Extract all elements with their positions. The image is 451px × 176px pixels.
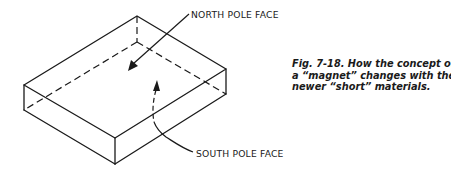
caption-line-1: Fig. 7-18. How the concept of xyxy=(292,58,442,70)
caption-line-3: newer “short” materials. xyxy=(292,81,442,93)
block-bottom-left xyxy=(24,110,115,164)
south-pole-face-label: SOUTH POLE FACE xyxy=(196,148,284,159)
south-pole-arrow xyxy=(153,80,193,152)
block-top-edges xyxy=(24,16,226,138)
caption-line-2: a “magnet” changes with the xyxy=(292,70,442,82)
hidden-edges xyxy=(24,16,226,110)
north-pole-face-label: NORTH POLE FACE xyxy=(191,9,279,20)
figure-caption: Fig. 7-18. How the concept of a “magnet”… xyxy=(292,58,442,93)
